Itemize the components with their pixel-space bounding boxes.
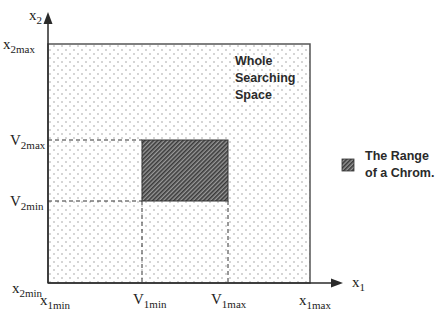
tick-symbol: V — [211, 291, 222, 307]
tick-symbol: x — [3, 36, 11, 52]
x-tick-x1min: x1min — [40, 293, 70, 311]
legend-line1: The Range — [365, 148, 434, 165]
y-axis-label: x2 — [29, 8, 42, 26]
x-tick-v1max: V1max — [211, 292, 246, 310]
tick-symbol: V — [10, 193, 21, 209]
y-tick-x2max: x2max — [3, 37, 35, 55]
tick-sub: 2max — [11, 43, 35, 55]
y-tick-v2min: V2min — [10, 194, 43, 212]
tick-symbol: x — [299, 292, 307, 308]
y-tick-x2min: x2min — [12, 281, 42, 299]
tick-sub: 1max — [222, 298, 246, 310]
tick-symbol: V — [133, 291, 144, 307]
whole-space-line3: Space — [235, 87, 295, 104]
y-axis-sub: 2 — [37, 14, 43, 26]
tick-symbol: V — [10, 132, 21, 148]
legend-line2: of a Chrom. — [365, 165, 434, 182]
tick-sub: 1min — [144, 298, 167, 310]
whole-space-line2: Searching — [235, 70, 295, 87]
legend-label: The Range of a Chrom. — [365, 148, 434, 182]
x-tick-v1min: V1min — [133, 292, 166, 310]
x-tick-x1max: x1max — [299, 293, 331, 311]
y-tick-v2max: V2max — [10, 133, 45, 151]
whole-space-label: Whole Searching Space — [235, 53, 295, 104]
y-axis-symbol: x — [29, 7, 37, 23]
x-axis-symbol: x — [352, 274, 360, 290]
tick-sub: 2max — [21, 139, 45, 151]
tick-symbol: x — [40, 292, 48, 308]
x-axis-label: x1 — [352, 275, 365, 293]
chromosome-range — [142, 140, 228, 201]
tick-sub: 1min — [48, 299, 71, 311]
tick-sub: 2min — [20, 287, 43, 299]
legend-swatch-icon — [342, 159, 354, 171]
whole-space-line1: Whole — [235, 53, 295, 70]
tick-sub: 1max — [307, 299, 331, 311]
tick-sub: 2min — [21, 200, 44, 212]
tick-symbol: x — [12, 280, 20, 296]
x-axis-sub: 1 — [360, 281, 366, 293]
